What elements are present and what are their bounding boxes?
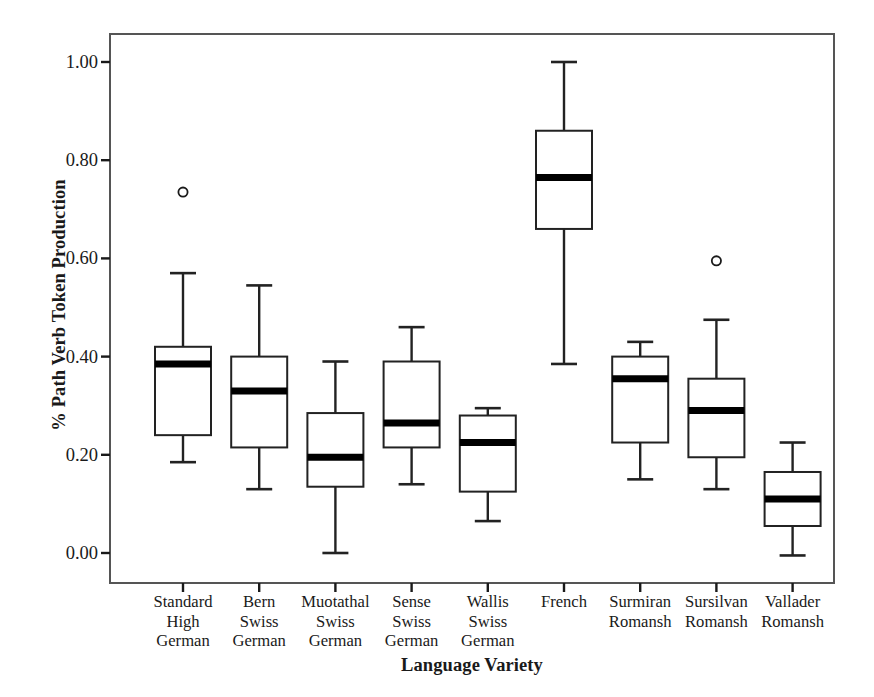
x-tick-label-line: Sursilvan — [685, 592, 748, 612]
box-plot-group — [460, 408, 516, 521]
x-tick-label-line: French — [541, 592, 587, 612]
box-plot-group — [155, 188, 211, 463]
x-tick-label-line: Vallader — [761, 592, 824, 612]
x-tick-label-line: German — [154, 631, 213, 651]
x-axis-title: Language Variety — [110, 655, 834, 676]
x-tick-label-line: Romansh — [761, 612, 824, 632]
outlier-point — [178, 188, 187, 197]
x-tick-label-line: Standard — [154, 592, 213, 612]
x-tick-label: WallisSwissGerman — [461, 592, 514, 651]
x-tick-label-line: Swiss — [461, 612, 514, 632]
x-tick-label-line: German — [301, 631, 369, 651]
x-tick-label-line: German — [385, 631, 438, 651]
box-body — [460, 416, 516, 492]
x-tick-label: SenseSwissGerman — [385, 592, 438, 651]
x-tick-label: French — [541, 592, 587, 612]
box-body — [612, 357, 668, 443]
x-tick-label-line: Muotathal — [301, 592, 369, 612]
x-tick-label-line: Swiss — [232, 612, 285, 632]
x-tick-label: BernSwissGerman — [232, 592, 285, 651]
x-tick-label-line: Swiss — [385, 612, 438, 632]
box-body — [307, 413, 363, 487]
box-plot-group — [536, 62, 592, 364]
x-tick-label: SursilvanRomansh — [685, 592, 748, 631]
box-body — [384, 362, 440, 448]
box-plot-group — [612, 342, 668, 479]
box-plot-group — [231, 285, 287, 489]
x-tick-label: ValladerRomansh — [761, 592, 824, 631]
box-body — [155, 347, 211, 435]
outlier-point — [712, 256, 721, 265]
x-tick-label-line: Romansh — [685, 612, 748, 632]
x-tick-label: StandardHighGerman — [154, 592, 213, 651]
x-tick-label-line: Bern — [232, 592, 285, 612]
plot-frame — [110, 34, 834, 583]
x-tick-label-line: High — [154, 612, 213, 632]
x-tick-label-line: German — [232, 631, 285, 651]
x-tick-label-line: Sense — [385, 592, 438, 612]
box-plot-group — [688, 256, 744, 489]
x-tick-label-line: Surmiran — [609, 592, 672, 612]
x-tick-label-line: Wallis — [461, 592, 514, 612]
x-tick-label-line: Romansh — [609, 612, 672, 632]
boxplot-figure: % Path Verb Token Production 1.000.800.6… — [0, 0, 874, 697]
x-tick-label-line: Swiss — [301, 612, 369, 632]
x-tick-label-line: German — [461, 631, 514, 651]
x-tick-label: SurmiranRomansh — [609, 592, 672, 631]
box-plot-group — [384, 327, 440, 484]
box-body — [231, 357, 287, 448]
box-body — [688, 379, 744, 458]
box-plot-group — [307, 362, 363, 553]
box-plot-group — [765, 443, 821, 556]
x-tick-label: MuotathalSwissGerman — [301, 592, 369, 651]
